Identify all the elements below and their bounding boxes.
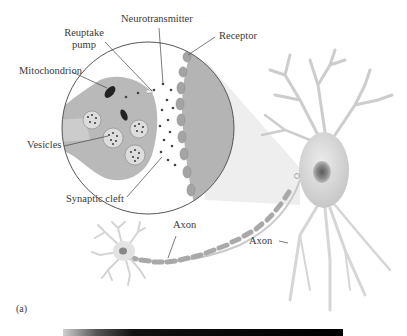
label-synaptic-cleft: Synaptic cleft — [66, 193, 124, 205]
label-axon-right: Axon — [249, 235, 272, 247]
neuron-synapse-diagram — [0, 0, 407, 336]
panel-label: (a) — [16, 303, 27, 314]
label-reuptake-pump-line1: Reuptake — [64, 27, 104, 38]
label-vesicles: Vesicles — [27, 139, 61, 151]
right-neuron-axon-branches — [290, 205, 390, 310]
label-neurotransmitter: Neurotransmitter — [121, 13, 193, 25]
left-neuron-nucleus — [119, 248, 127, 255]
right-neuron-dendrites — [262, 50, 392, 140]
label-receptor: Receptor — [219, 30, 257, 42]
label-mitochondrion: Mitochondrion — [19, 65, 82, 77]
label-reuptake-pump-line2: pump — [72, 39, 96, 50]
next-panel-edge — [63, 329, 343, 336]
label-reuptake-pump: Reuptake pump — [64, 27, 104, 50]
label-axon-left: Axon — [173, 219, 196, 231]
right-neuron-nucleus — [313, 161, 331, 183]
